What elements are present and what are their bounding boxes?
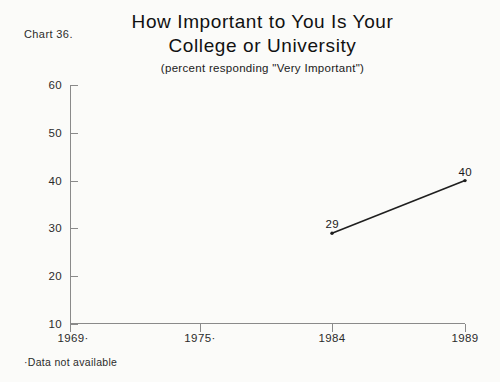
y-tick-label-20: 20 (48, 270, 62, 282)
y-tick-label-40: 40 (48, 175, 62, 187)
chart-page: Chart 36. How Important to You Is Your C… (0, 0, 500, 382)
y-tick-label-50: 50 (48, 127, 62, 139)
y-tick-label-10: 10 (48, 318, 62, 330)
x-tick-label-1969: 1969· (57, 332, 88, 344)
data-series-line (70, 85, 465, 324)
y-tick-label-60: 60 (48, 79, 62, 91)
chart-subtitle: (percent responding "Very Important") (90, 62, 435, 74)
x-tick-label-1975: 1975· (184, 332, 215, 344)
data-point-1989 (463, 179, 466, 182)
chart-title-line-2: College or University (90, 34, 435, 58)
chart-title-line-1: How Important to You Is Your (90, 10, 435, 34)
x-tick-label-1984: 1984 (318, 332, 345, 344)
chart-title: How Important to You Is Your College or … (90, 10, 435, 58)
chart-number-label: Chart 36. (24, 28, 73, 40)
x-tick-1969 (70, 324, 71, 332)
x-tick-1975 (200, 324, 201, 332)
data-point-1984 (330, 232, 333, 235)
x-tick-1989 (465, 324, 466, 332)
footnote-text: ·Data not available (24, 356, 117, 368)
data-point-label-1984: 29 (325, 218, 339, 230)
x-tick-1984 (332, 324, 333, 332)
y-tick-label-30: 30 (48, 222, 62, 234)
data-point-label-1989: 40 (458, 166, 472, 178)
x-tick-label-1989: 1989 (451, 332, 478, 344)
plot-area: 102030405060 2940 (70, 85, 465, 324)
y-tick-10: 10 (71, 324, 78, 325)
